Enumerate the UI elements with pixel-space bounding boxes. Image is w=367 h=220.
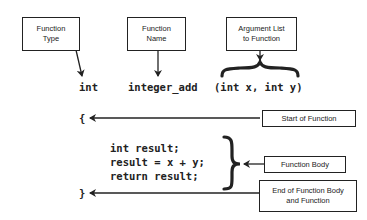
function-name-label: Function Name: [127, 17, 186, 51]
code-body-line-3: return result;: [110, 169, 199, 184]
code-open-brace: {: [79, 111, 85, 126]
code-parameters: (int x, int y): [214, 80, 303, 95]
function-anatomy-diagram: Function Type Function Name Argument Lis…: [0, 0, 367, 220]
code-body-line-1: int result;: [110, 141, 180, 156]
start-of-function-label: Start of Function: [262, 110, 356, 127]
argument-list-label: Argument List to Function: [226, 17, 297, 51]
end-of-function-label: End of Function Body and Function: [259, 180, 357, 212]
code-return-type: int: [79, 80, 98, 95]
code-body-line-2: result = x + y;: [110, 155, 205, 170]
code-close-brace: }: [79, 186, 85, 201]
function-body-label: Function Body: [264, 156, 346, 173]
function-type-label: Function Type: [22, 17, 80, 51]
code-function-name: integer_add: [128, 80, 198, 95]
